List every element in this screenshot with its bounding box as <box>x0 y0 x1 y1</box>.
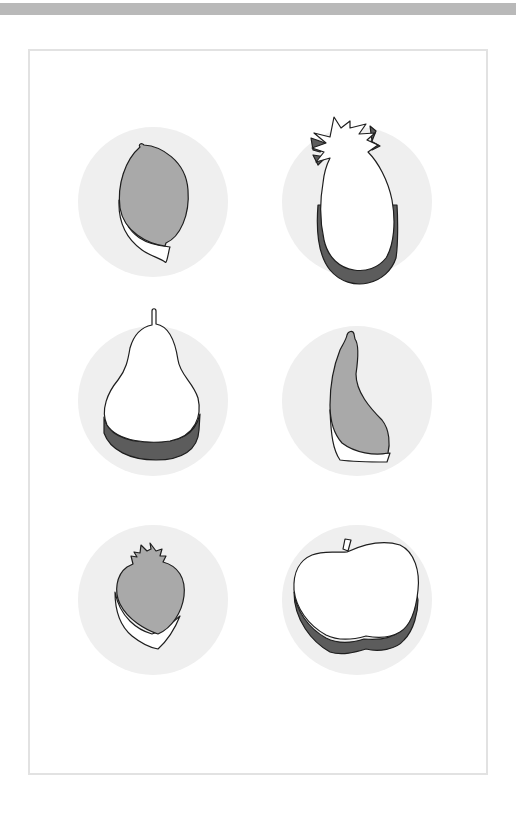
fruit-illustration <box>0 0 516 820</box>
apple-icon <box>294 539 419 654</box>
apple-top <box>294 543 419 640</box>
pear-icon <box>104 309 200 460</box>
